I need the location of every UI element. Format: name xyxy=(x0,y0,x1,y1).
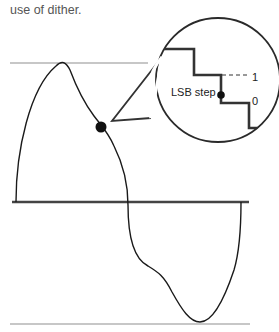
lsb-step-label: LSB step xyxy=(171,86,216,98)
sample-point-dot xyxy=(96,122,107,133)
dither-diagram: LSB step 1 0 xyxy=(0,0,279,332)
level-1-label: 1 xyxy=(252,71,258,83)
level-0-label: 0 xyxy=(252,95,258,107)
magnifier-circle xyxy=(156,18,279,142)
step-point-dot xyxy=(217,91,225,99)
